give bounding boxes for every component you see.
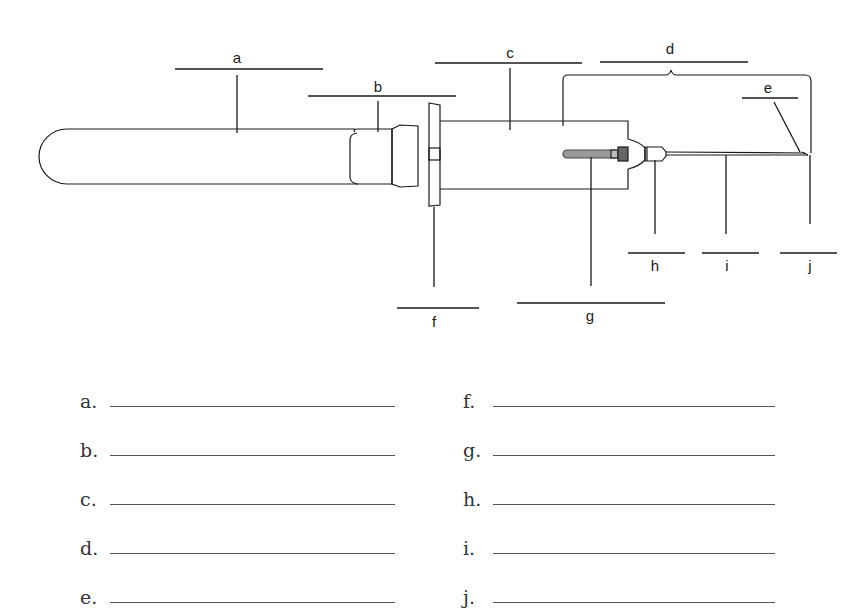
answer-label: a. [80,392,110,411]
answer-blank-j[interactable] [493,602,775,603]
callout-g: g [586,308,594,323]
bracket-d [563,70,811,153]
answer-row-d: d. [80,509,395,558]
answer-list-left: a. b. c. d. e. [80,362,395,607]
answer-label: b. [80,441,110,460]
answer-blank-e[interactable] [110,602,395,603]
answer-label: g. [463,441,493,460]
callout-i: i [725,258,728,273]
answer-blank-d[interactable] [110,553,395,554]
needle-shaft [666,152,805,153]
answer-row-j: j. [463,558,775,607]
diagram-drawing [0,0,866,340]
answer-row-h: h. [463,460,775,509]
answer-label: i. [463,539,493,558]
answer-blank-f[interactable] [493,406,775,407]
answer-row-b: b. [80,411,395,460]
tube-stopper [350,129,392,184]
answer-blank-i[interactable] [493,553,775,554]
answer-label: j. [463,588,493,607]
answer-row-g: g. [463,411,775,460]
collection-tube [39,129,358,184]
rubber-sleeve-needle [563,150,618,158]
answer-row-e: e. [80,558,395,607]
answer-blank-g[interactable] [493,455,775,456]
callout-j: j [808,258,811,273]
holder-flange [429,103,440,206]
callout-f: f [432,314,436,329]
answer-label: f. [463,392,493,411]
answer-row-f: f. [463,362,775,411]
answer-blank-c[interactable] [110,504,395,505]
callout-a: a [233,50,241,65]
answer-blank-a[interactable] [110,406,395,407]
answer-row-a: a. [80,362,395,411]
answer-row-i: i. [463,509,775,558]
answer-label: d. [80,539,110,558]
callout-d: d [666,41,674,56]
answer-blank-b[interactable] [110,455,395,456]
callout-h: h [651,258,659,273]
answer-label: e. [80,588,110,607]
answer-label: c. [80,490,110,509]
answer-row-c: c. [80,460,395,509]
answer-list-right: f. g. h. i. j. [463,362,775,607]
answer-blank-h[interactable] [493,504,775,505]
answer-label: h. [463,490,493,509]
callout-e: e [764,80,772,95]
callout-b: b [374,79,382,94]
blood-collection-diagram: a b c d e f g h i j [0,0,866,340]
callout-c: c [506,45,514,60]
